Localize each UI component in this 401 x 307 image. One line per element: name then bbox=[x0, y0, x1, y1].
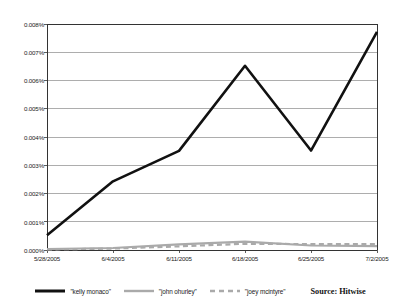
source-note: Source: Hitwise bbox=[310, 287, 365, 296]
legend-line-dashed-gray-icon bbox=[210, 287, 240, 295]
x-tick-label: 7/2/2005 bbox=[351, 255, 401, 262]
chart-legend: "kelly monaco" "john ohurley" "joey mcin… bbox=[0, 281, 401, 301]
x-tick-label: 6/25/2005 bbox=[285, 255, 337, 262]
legend-label: "john ohurley" bbox=[159, 288, 197, 295]
legend-label: "kelly monaco" bbox=[70, 288, 110, 295]
x-tick-label: 6/4/2005 bbox=[87, 255, 139, 262]
plot-frame bbox=[47, 24, 377, 253]
x-tick-label: 6/18/2005 bbox=[219, 255, 271, 262]
x-tick-label: 5/28/2005 bbox=[21, 255, 73, 262]
legend-line-solid-black-icon bbox=[35, 287, 65, 295]
line-chart: 0.008% 0.007% 0.006% 0.005% 0.004% 0.003… bbox=[0, 0, 401, 307]
series-line bbox=[47, 32, 377, 235]
legend-item-joey-mcintyre: "joey mcintyre" bbox=[210, 287, 286, 295]
legend-label: "joey mcintyre" bbox=[245, 288, 286, 295]
gridlines bbox=[44, 24, 377, 250]
legend-item-kelly-monaco: "kelly monaco" bbox=[35, 287, 110, 295]
legend-item-john-ohurley: "john ohurley" bbox=[124, 287, 197, 295]
legend-line-solid-gray-icon bbox=[124, 287, 154, 295]
x-tick-label: 6/11/2005 bbox=[153, 255, 205, 262]
series-layer bbox=[47, 32, 377, 250]
